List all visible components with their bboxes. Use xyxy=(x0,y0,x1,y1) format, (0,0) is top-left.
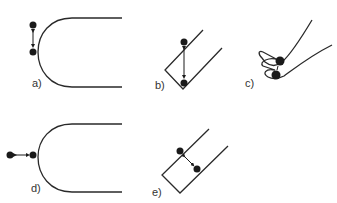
panel-label: b) xyxy=(155,79,165,91)
groove-surface xyxy=(165,30,222,89)
panel-label: d) xyxy=(31,182,41,194)
particle xyxy=(272,71,281,80)
folded-surface xyxy=(259,20,332,79)
panel-e: e) xyxy=(152,129,228,198)
particle xyxy=(276,57,285,66)
diagram-canvas: a) b) c) d) e) xyxy=(0,0,337,203)
particle xyxy=(30,152,37,159)
particle xyxy=(194,166,201,173)
double-arrow-icon xyxy=(184,156,193,165)
panel-label: c) xyxy=(245,77,254,89)
particle xyxy=(181,80,188,87)
panel-b: b) xyxy=(155,30,222,91)
panel-label: e) xyxy=(152,186,162,198)
panel-label: a) xyxy=(32,77,42,89)
gap-mark xyxy=(277,66,278,70)
particle xyxy=(177,148,184,155)
u-surface xyxy=(38,124,122,192)
u-surface xyxy=(38,18,122,87)
particle xyxy=(181,39,188,46)
panel-d: d) xyxy=(7,124,123,194)
particle xyxy=(30,22,37,29)
particle xyxy=(30,49,37,56)
panel-c: c) xyxy=(245,20,332,89)
channel-surface xyxy=(162,129,228,193)
particle xyxy=(7,152,14,159)
panel-a: a) xyxy=(30,18,123,89)
